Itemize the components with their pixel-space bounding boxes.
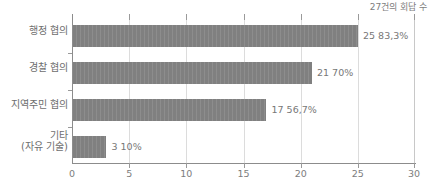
bar-3 [72,136,106,158]
tick-top-25 [358,14,359,20]
x-tick-label-5: 5 [126,168,132,179]
x-tick-label-30: 30 [408,168,420,179]
tick-top-30 [414,14,415,20]
category-label-1: 경찰 협의 [0,62,68,73]
x-tick-label-10: 10 [180,168,192,179]
tick-top-15 [244,14,245,20]
x-tick-label-0: 0 [69,168,75,179]
tick-top-20 [301,14,302,20]
category-label-3-line-2: (자유 기술) [0,141,68,152]
bar-0 [72,25,358,47]
response-count-annotation: 27건의 회답 수 [370,0,427,13]
bar-chart: 27건의 회답 수 행정 협의 경찰 협의 지역주민 협의 기타 (자유 기술) [0,0,431,185]
y-axis-tick-1 [68,90,72,91]
gridline-25 [358,20,359,163]
category-label-0: 행정 협의 [0,25,68,36]
bar-value-label-1: 21 70% [317,62,353,84]
gridline-30 [414,20,415,163]
bar-value-label-0: 25 83,3% [363,25,408,47]
bar-1 [72,62,312,84]
bar-value-label-2: 17 56,7% [272,99,317,121]
y-axis-tick-2 [68,127,72,128]
category-label-1-line-1: 경찰 협의 [29,62,68,73]
tick-top-10 [186,14,187,20]
bar-value-label-3: 3 10% [112,136,142,158]
x-tick-label-15: 15 [237,168,249,179]
x-tick-label-25: 25 [352,168,364,179]
category-label-0-line-1: 행정 협의 [29,25,68,36]
plot-area: 25 83,3% 21 70% 17 56,7% 3 10% [72,20,415,163]
category-label-2: 지역주민 협의 [0,99,68,110]
x-tick-label-20: 20 [295,168,307,179]
category-label-3: 기타 (자유 기술) [0,130,68,152]
tick-top-5 [129,14,130,20]
category-label-2-line-1: 지역주민 협의 [11,99,68,110]
bar-2 [72,99,266,121]
y-axis-tick-0 [68,53,72,54]
category-axis-labels: 행정 협의 경찰 협의 지역주민 협의 기타 (자유 기술) [0,0,68,185]
category-label-3-line-1: 기타 [0,130,68,141]
